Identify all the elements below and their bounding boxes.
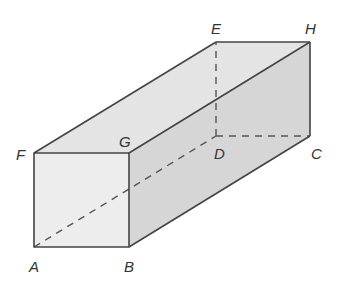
vertex-label-g: G [119,133,131,150]
vertex-label-e: E [211,20,222,37]
vertex-label-c: C [311,145,322,162]
front-face [34,153,129,247]
vertex-label-a: A [28,258,39,275]
vertex-label-b: B [124,258,134,275]
vertex-label-d: D [214,145,225,162]
cuboid-diagram: E H F G D C A B [0,0,340,293]
vertex-label-f: F [16,146,26,163]
vertex-label-h: H [305,20,316,37]
